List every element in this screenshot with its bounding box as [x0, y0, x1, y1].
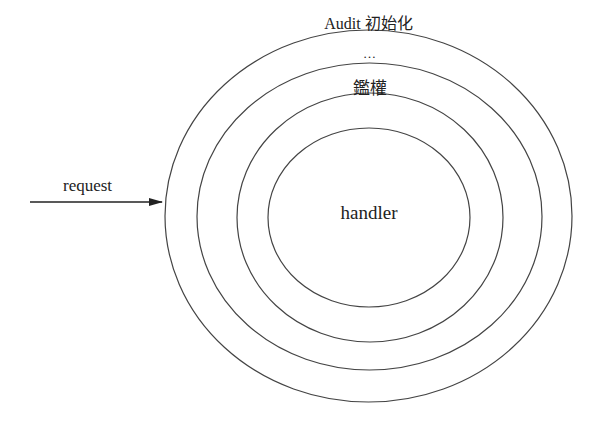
layer-label-audit-init: Audit 初始化 [324, 15, 412, 32]
request-label: request [63, 176, 112, 195]
layer-label-handler: handler [341, 202, 399, 223]
layer-label-ellipsis: … [363, 46, 376, 61]
layer-label-authentication: 鑑權 [353, 79, 387, 98]
diagram-svg: request Audit 初始化 … 鑑權 handler [0, 0, 594, 424]
diagram-canvas: request Audit 初始化 … 鑑權 handler [0, 0, 594, 424]
